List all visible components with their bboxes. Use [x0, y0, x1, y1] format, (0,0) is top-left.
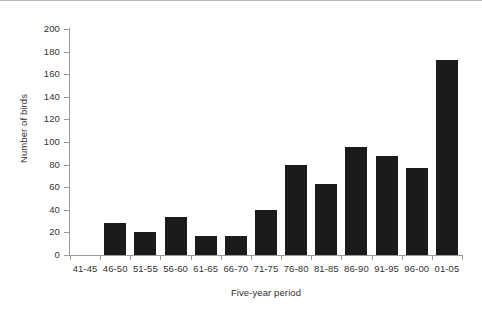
y-axis-tick: [64, 52, 69, 53]
y-axis-tick-label: 0: [20, 250, 60, 260]
x-axis-tick-label: 01-05: [421, 264, 473, 274]
y-axis-tick-label: 40: [20, 205, 60, 215]
x-axis-tick: [100, 256, 101, 260]
y-axis-tick: [64, 142, 69, 143]
bar-71-75: [255, 210, 277, 255]
bar-61-65: [195, 236, 217, 255]
bar-96-00: [406, 168, 428, 255]
bar-86-90: [345, 147, 367, 255]
x-axis-tick: [191, 256, 192, 260]
plot-area: [70, 29, 462, 255]
x-axis-title: Five-year period: [70, 287, 462, 298]
bar-76-80: [285, 165, 307, 255]
x-axis-tick: [160, 256, 161, 260]
y-axis-tick-label: 20: [20, 227, 60, 237]
bar-56-60: [165, 217, 187, 255]
y-axis-tick-label: 180: [20, 47, 60, 57]
y-axis-title: Number of birds: [18, 59, 29, 199]
x-axis-tick: [402, 256, 403, 260]
y-axis-tick: [64, 210, 69, 211]
x-axis-tick: [372, 256, 373, 260]
y-axis-tick-label: 200: [20, 24, 60, 34]
x-axis-tick: [221, 256, 222, 260]
bar-01-05: [436, 60, 458, 255]
bar-66-70: [225, 236, 247, 255]
bar-chart-figure: 020406080100120140160180200 41-4546-5051…: [0, 0, 482, 310]
bar-91-95: [376, 156, 398, 255]
y-axis-tick: [64, 232, 69, 233]
x-axis-tick: [432, 256, 433, 260]
x-axis-tick: [281, 256, 282, 260]
y-axis-tick: [64, 97, 69, 98]
x-axis-tick: [462, 256, 463, 260]
x-axis-tick: [251, 256, 252, 260]
y-axis-tick: [64, 187, 69, 188]
x-axis-tick: [341, 256, 342, 260]
y-axis-tick: [64, 119, 69, 120]
y-axis-tick: [64, 29, 69, 30]
bar-46-50: [104, 223, 126, 255]
x-axis-tick: [311, 256, 312, 260]
y-axis-tick: [64, 74, 69, 75]
x-axis-tick: [70, 256, 71, 260]
bar-51-55: [134, 232, 156, 255]
y-axis-tick: [64, 165, 69, 166]
bar-81-85: [315, 184, 337, 255]
y-axis-tick: [64, 255, 69, 256]
x-axis-line: [69, 255, 463, 256]
x-axis-tick: [130, 256, 131, 260]
